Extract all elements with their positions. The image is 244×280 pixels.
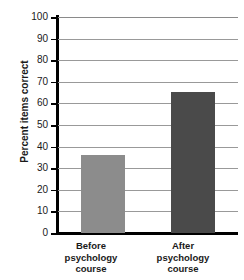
category-label-line: After xyxy=(140,240,226,252)
y-axis-tick-label: 80 xyxy=(14,55,48,65)
y-axis-tick-label: 90 xyxy=(14,34,48,44)
y-axis-tick xyxy=(51,103,57,105)
y-axis-tick-label: 100 xyxy=(14,12,48,22)
y-axis-tick xyxy=(51,233,57,235)
gridline xyxy=(58,39,238,40)
x-axis-category-label-1: After psychology course xyxy=(140,240,226,275)
y-axis-tick-label: 0 xyxy=(14,228,48,238)
gridline xyxy=(58,82,238,83)
y-axis-tick-label: 20 xyxy=(14,185,48,195)
y-axis-title: Percent items correct xyxy=(19,22,30,202)
plot-area xyxy=(58,17,238,233)
y-axis-tick xyxy=(51,17,57,19)
gridline xyxy=(58,17,238,18)
y-axis-tick-label: 10 xyxy=(14,206,48,216)
y-axis-tick xyxy=(51,60,57,62)
category-label-line: psychology xyxy=(48,252,134,264)
y-axis-tick-label: 60 xyxy=(14,98,48,108)
y-axis-tick xyxy=(51,168,57,170)
y-axis-tick xyxy=(51,82,57,84)
y-axis-tick-label: 70 xyxy=(14,77,48,87)
y-axis-tick xyxy=(51,39,57,41)
y-axis-tick-label: 30 xyxy=(14,163,48,173)
category-label-line: course xyxy=(140,263,226,275)
bar-1 xyxy=(171,92,215,233)
y-axis-tick-label: 50 xyxy=(14,120,48,130)
y-axis-tick xyxy=(51,211,57,213)
category-label-line: course xyxy=(48,263,134,275)
gridline xyxy=(58,60,238,61)
y-axis-tick xyxy=(51,190,57,192)
bar-0 xyxy=(81,155,125,233)
y-axis-tick xyxy=(51,147,57,149)
category-label-line: psychology xyxy=(140,252,226,264)
y-axis-tick xyxy=(51,125,57,127)
category-label-line: Before xyxy=(48,240,134,252)
bar-chart: Percent items correct 010203040506070809… xyxy=(0,0,244,280)
x-axis-category-label-0: Before psychology course xyxy=(48,240,134,275)
y-axis-tick-label: 40 xyxy=(14,142,48,152)
